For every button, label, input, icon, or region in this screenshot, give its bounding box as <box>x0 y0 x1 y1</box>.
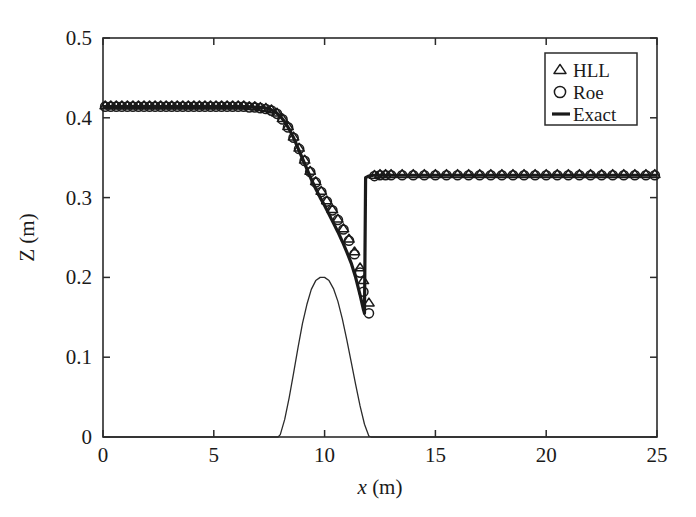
x-tick-label: 20 <box>536 443 557 467</box>
y-tick-label: 0.1 <box>66 345 92 369</box>
series-roe-markers <box>101 102 660 318</box>
y-tick-label: 0 <box>82 425 93 449</box>
x-tick-label: 0 <box>98 443 109 467</box>
y-axis-title: Z (m) <box>15 213 39 261</box>
y-tick-label: 0.5 <box>66 26 92 50</box>
legend-label: Exact <box>573 104 617 125</box>
figure-container: 051015202500.10.20.30.40.5x (m)Z (m)HLLR… <box>0 0 696 517</box>
roe-marker <box>344 236 353 245</box>
y-tick-label: 0.2 <box>66 265 92 289</box>
series-exact-line <box>103 107 657 314</box>
legend-label: Roe <box>573 82 604 103</box>
x-tick-label: 15 <box>425 443 446 467</box>
series-bed-profile <box>103 277 657 437</box>
legend-label: HLL <box>573 60 610 81</box>
series-hll-markers <box>100 101 660 306</box>
x-tick-label: 10 <box>314 443 335 467</box>
y-tick-label: 0.4 <box>66 106 93 130</box>
y-tick-label: 0.3 <box>66 186 92 210</box>
x-tick-label: 5 <box>209 443 220 467</box>
x-tick-label: 25 <box>647 443 668 467</box>
x-axis-title: x (m) <box>357 475 403 499</box>
chart-canvas: 051015202500.10.20.30.40.5x (m)Z (m)HLLR… <box>0 0 696 517</box>
